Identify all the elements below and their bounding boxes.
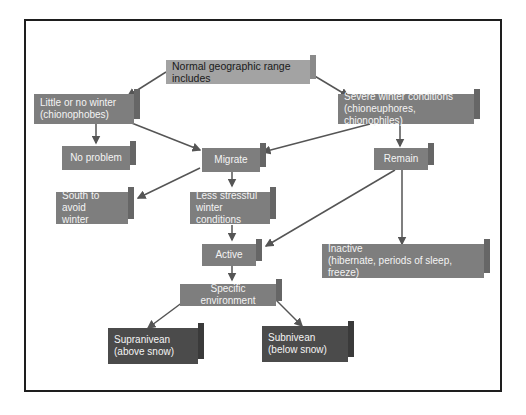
node-label: Severe winter conditions (chioneuphores,… — [344, 91, 468, 127]
node-supranivean: Supranivean (above snow) — [108, 328, 198, 364]
node-subnivean: Subnivean (below snow) — [262, 326, 348, 362]
node-little-winter: Little or no winter (chionophobes) — [34, 94, 134, 124]
box-side — [310, 55, 316, 79]
box-side — [474, 89, 480, 119]
node-south: South to avoid winter — [56, 192, 128, 224]
box-side — [276, 279, 282, 301]
node-root: Normal geographic range includes — [166, 60, 310, 84]
node-label: Specific environment — [186, 283, 270, 307]
node-label: Active — [215, 249, 242, 261]
box-side — [260, 143, 266, 167]
node-migrate: Migrate — [202, 148, 260, 172]
box-side — [134, 89, 140, 119]
box-side — [484, 239, 490, 273]
node-label: Normal geographic range includes — [172, 60, 304, 84]
box-side — [198, 323, 204, 359]
node-inactive: Inactive (hibernate, periods of sleep, f… — [322, 244, 484, 278]
box-side — [428, 143, 434, 165]
node-label: Inactive (hibernate, periods of sleep, f… — [328, 243, 478, 279]
box-side — [256, 239, 262, 261]
box-side — [270, 187, 276, 219]
node-label: Subnivean (below snow) — [268, 332, 327, 356]
node-remain: Remain — [374, 148, 428, 170]
node-less-stressful: Less stressful winter conditions — [190, 192, 270, 224]
node-severe-winter: Severe winter conditions (chioneuphores,… — [338, 94, 474, 124]
node-no-problem: No problem — [62, 146, 130, 170]
node-label: Little or no winter (chionophobes) — [40, 97, 116, 121]
node-specific-environment: Specific environment — [180, 284, 276, 306]
node-label: No problem — [70, 152, 122, 164]
box-side — [128, 187, 134, 219]
node-label: Remain — [384, 153, 418, 165]
node-label: Migrate — [214, 154, 247, 166]
node-active: Active — [202, 244, 256, 266]
node-label: Supranivean (above snow) — [114, 334, 174, 358]
box-side — [348, 321, 354, 357]
node-label: South to avoid winter — [62, 190, 122, 226]
box-side — [130, 141, 136, 165]
node-label: Less stressful winter conditions — [196, 190, 264, 226]
